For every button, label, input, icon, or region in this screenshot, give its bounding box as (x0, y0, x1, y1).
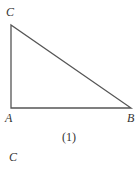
vertex-label-c: C (6, 6, 14, 18)
right-triangle (11, 25, 131, 108)
vertex-label-b: B (127, 112, 134, 124)
next-figure-vertex-label-c: C (9, 151, 17, 163)
vertex-label-a: A (5, 112, 12, 124)
triangle-diagram (0, 0, 140, 176)
figure-caption: (1) (62, 131, 76, 143)
